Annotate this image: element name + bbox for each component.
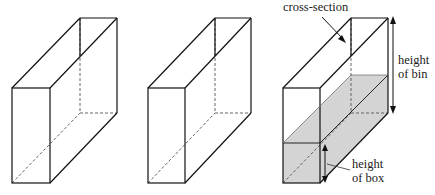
cross-section-arrow (322, 17, 346, 43)
box-2 (148, 18, 251, 183)
height-of-box-label-line1: height (352, 157, 384, 171)
height-of-box-label-line2: of box (352, 171, 385, 185)
cross-section-label: cross-section (283, 0, 349, 14)
height-of-bin-label-line1: height (398, 53, 430, 67)
box-1 (12, 18, 117, 183)
height-of-bin-arrow (390, 16, 396, 114)
diagram-canvas: cross-section height of bin height of bo… (0, 0, 435, 195)
height-of-bin-label-line2: of bin (398, 67, 428, 81)
